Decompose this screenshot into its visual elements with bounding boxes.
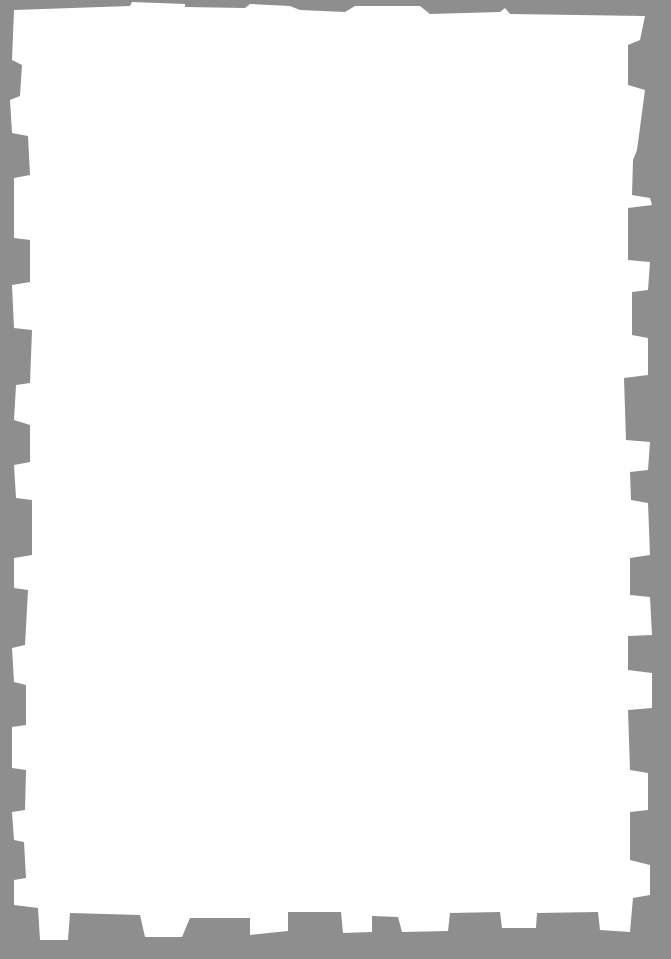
blank-paper-sheet xyxy=(10,2,652,940)
stamp-frame xyxy=(0,0,671,959)
frame-graphic xyxy=(0,0,671,959)
